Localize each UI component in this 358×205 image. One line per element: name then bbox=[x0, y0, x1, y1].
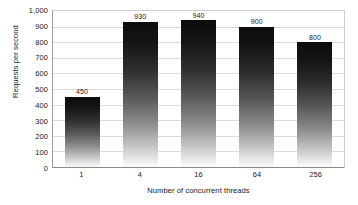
y-tick-label: 100 bbox=[14, 148, 48, 157]
x-tick-label: 16 bbox=[169, 170, 228, 179]
bar[interactable]: 930 bbox=[123, 22, 158, 167]
y-tick-label: 600 bbox=[14, 69, 48, 78]
bar-slot: 940 bbox=[169, 11, 227, 167]
y-tick-label: 200 bbox=[14, 132, 48, 141]
bar-slot: 930 bbox=[111, 11, 169, 167]
bar[interactable]: 940 bbox=[181, 20, 216, 167]
bar[interactable]: 900 bbox=[239, 27, 274, 167]
y-tick-label: 800 bbox=[14, 37, 48, 46]
bar-value-label: 800 bbox=[309, 34, 321, 41]
bar-value-label: 450 bbox=[76, 88, 88, 95]
bar[interactable]: 450 bbox=[65, 97, 100, 167]
x-axis-tick-labels: 1 4 16 64 256 bbox=[52, 170, 345, 179]
bar-chart: Requests per second 0 100 200 300 400 50… bbox=[0, 0, 358, 205]
y-tick-label: 400 bbox=[14, 100, 48, 109]
bar[interactable]: 800 bbox=[297, 42, 332, 167]
bar-value-label: 930 bbox=[134, 13, 146, 20]
y-axis-tick-labels: 0 100 200 300 400 500 600 700 800 900 1,… bbox=[14, 10, 48, 168]
x-tick-label: 64 bbox=[228, 170, 287, 179]
y-tick-label: 500 bbox=[14, 85, 48, 94]
bar-value-label: 900 bbox=[251, 18, 263, 25]
bar-slot: 800 bbox=[286, 11, 344, 167]
x-tick-label: 4 bbox=[111, 170, 170, 179]
y-tick-label: 1,000 bbox=[14, 6, 48, 15]
bar-slot: 450 bbox=[53, 11, 111, 167]
y-tick-label: 700 bbox=[14, 53, 48, 62]
y-tick-label: 300 bbox=[14, 116, 48, 125]
y-tick-label: 0 bbox=[14, 164, 48, 173]
x-tick-label: 256 bbox=[286, 170, 345, 179]
y-tick-label: 900 bbox=[14, 21, 48, 30]
bars-layer: 450 930 940 900 800 bbox=[53, 11, 344, 167]
plot-area: 450 930 940 900 800 bbox=[52, 10, 345, 168]
bar-value-label: 940 bbox=[193, 12, 205, 19]
x-tick-label: 1 bbox=[52, 170, 111, 179]
x-axis-title: Number of concurrent threads bbox=[52, 186, 345, 195]
bar-slot: 900 bbox=[228, 11, 286, 167]
